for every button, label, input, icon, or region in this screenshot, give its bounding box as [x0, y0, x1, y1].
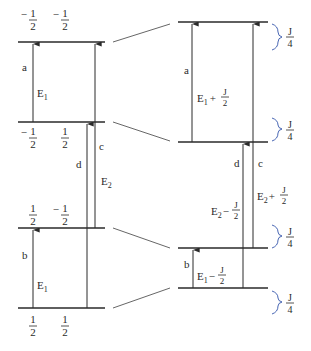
brace-upper-mid	[272, 118, 282, 141]
svg-text:2: 2	[220, 276, 225, 286]
svg-text:J: J	[282, 185, 286, 195]
energy-E2-plus-J2: E2+ J 2	[257, 185, 288, 206]
svg-text:4: 4	[288, 238, 293, 249]
left-levels	[18, 42, 105, 308]
energy-E1-plus-J2: E1+ J 2	[197, 87, 229, 108]
svg-text:2: 2	[30, 326, 36, 338]
svg-text:−: −	[21, 126, 27, 138]
energy-E1-minus-J2: E1− J 2	[197, 265, 226, 286]
svg-text:E2+: E2+	[257, 190, 275, 205]
energy-E2-left: E2	[101, 175, 112, 190]
svg-text:−: −	[53, 203, 59, 215]
label-c-right: c	[258, 157, 263, 169]
spin-minus-sign: −	[21, 8, 27, 20]
svg-text:J: J	[234, 200, 238, 210]
svg-text:J: J	[220, 265, 224, 275]
j-quarter-shifts	[272, 24, 282, 314]
svg-text:2: 2	[30, 138, 36, 150]
svg-text:1: 1	[62, 125, 68, 137]
svg-text:1: 1	[62, 202, 68, 214]
svg-text:2: 2	[62, 20, 68, 32]
svg-text:2: 2	[282, 196, 287, 206]
level-connectors	[113, 24, 170, 308]
label-b-right: b	[184, 258, 190, 270]
label-d-right: d	[234, 157, 240, 169]
svg-text:1: 1	[30, 7, 36, 19]
brace-top	[272, 24, 282, 50]
svg-text:2: 2	[30, 215, 36, 227]
left-transitions	[33, 44, 95, 308]
svg-text:4: 4	[288, 131, 293, 142]
svg-text:−: −	[53, 8, 59, 20]
svg-text:J: J	[288, 292, 292, 303]
svg-text:E1−: E1−	[197, 270, 215, 285]
right-transition-labels: a E1+ J 2 d c E2− J 2 E2+ J 2 b E1− J 2	[184, 64, 288, 286]
svg-text:1: 1	[62, 7, 68, 19]
svg-text:2: 2	[223, 98, 228, 108]
label-c-left: c	[99, 140, 104, 152]
svg-text:2: 2	[30, 20, 36, 32]
svg-text:E1+: E1+	[197, 92, 216, 107]
svg-text:2: 2	[234, 211, 239, 221]
energy-E2-minus-J2: E2− J 2	[211, 200, 240, 221]
label-a-right: a	[184, 64, 189, 76]
energy-E1-top: E1	[37, 87, 48, 102]
j-quarter-labels: J 4 J 4 J 4 J 4	[286, 26, 294, 315]
connector-top	[113, 24, 170, 42]
svg-text:4: 4	[288, 38, 293, 49]
connector-lower-mid	[113, 228, 170, 248]
svg-text:4: 4	[288, 304, 293, 315]
svg-text:J: J	[288, 226, 292, 237]
brace-lower-mid	[272, 225, 282, 248]
svg-text:1: 1	[30, 313, 36, 325]
svg-text:1: 1	[62, 313, 68, 325]
connector-upper-mid	[113, 122, 170, 141]
svg-text:2: 2	[62, 326, 68, 338]
label-a-left: a	[22, 61, 27, 73]
label-d-left: d	[76, 158, 82, 170]
label-b-left: b	[22, 249, 28, 261]
svg-text:1: 1	[30, 202, 36, 214]
svg-text:1: 1	[30, 125, 36, 137]
energy-level-diagram: − 1 2 − 1 2 − 1 2 1 2 1 2 − 1 2 1 2 1 2 …	[0, 0, 311, 351]
svg-text:J: J	[223, 87, 227, 97]
left-transition-labels: a E1 b E1 d c E2	[22, 61, 112, 294]
svg-text:J: J	[288, 119, 292, 130]
svg-text:J: J	[288, 26, 292, 37]
connector-bottom	[113, 288, 170, 308]
brace-bottom	[272, 291, 282, 314]
svg-text:E2−: E2−	[211, 205, 229, 220]
svg-text:2: 2	[62, 215, 68, 227]
energy-E1-bottom: E1	[37, 279, 48, 294]
svg-text:2: 2	[62, 138, 68, 150]
